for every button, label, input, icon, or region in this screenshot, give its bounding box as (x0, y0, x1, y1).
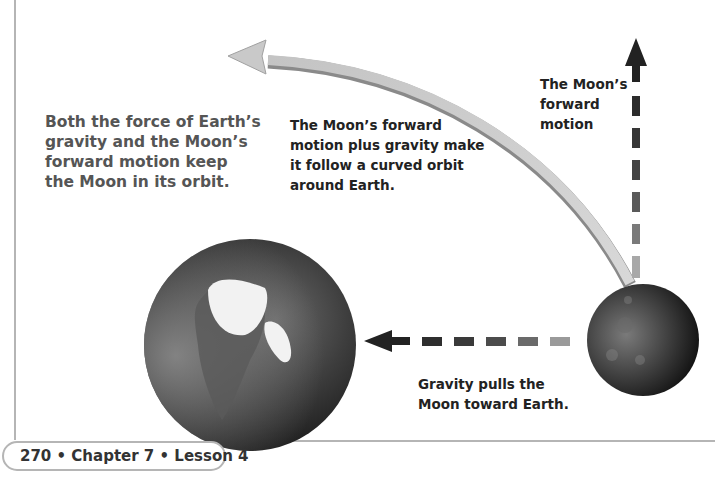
earth-globe (144, 239, 356, 451)
gravity-arrow (364, 330, 570, 352)
forward-motion-caption: The Moon’s forward motion (540, 74, 630, 134)
main-caption: Both the force of Earth’s gravity and th… (45, 112, 245, 192)
moon-sphere (587, 284, 699, 396)
page-footer-label: 270 • Chapter 7 • Lesson 4 (20, 447, 249, 465)
textbook-page: Both the force of Earth’s gravity and th… (0, 0, 715, 478)
gravity-caption: Gravity pulls the Moon toward Earth. (418, 374, 578, 414)
orbit-caption: The Moon’s forward motion plus gravity m… (290, 115, 460, 195)
orbit-diagram (0, 0, 715, 478)
